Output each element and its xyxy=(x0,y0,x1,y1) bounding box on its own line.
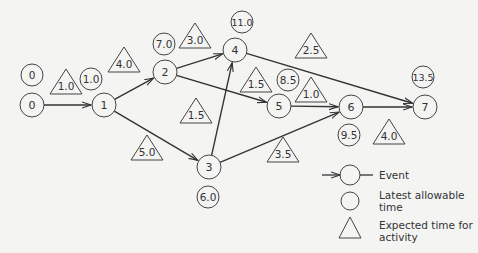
activity-arrow-3-4 xyxy=(212,63,233,156)
latest-time-label: 8.5 xyxy=(280,74,297,86)
legend-expected-line2: activity xyxy=(379,231,473,243)
latest-time-7: 13.5 xyxy=(412,66,434,88)
latest-time-label: 13.5 xyxy=(412,72,433,83)
activity-time-2-4: 3.0 xyxy=(179,23,211,48)
expected-time-label: 3.5 xyxy=(275,148,292,160)
legend-latest-label: Latest allowable time xyxy=(379,189,465,213)
expected-time-label: 1.0 xyxy=(303,88,320,100)
expected-time-label: 3.0 xyxy=(187,34,204,46)
event-node-0: 0 xyxy=(20,93,44,117)
event-label: 5 xyxy=(276,100,283,113)
event-node-7: 7 xyxy=(413,95,437,119)
activity-arrow-2-4 xyxy=(176,54,222,69)
event-node-5: 5 xyxy=(267,94,291,118)
latest-time-label: 0 xyxy=(29,69,36,81)
latest-time-0: 0 xyxy=(21,64,43,86)
legend-event-label: Event xyxy=(379,169,409,181)
legend-event-icon xyxy=(322,165,373,185)
event-label: 2 xyxy=(162,66,169,79)
expected-time-label: 4.0 xyxy=(381,130,398,142)
event-node-2: 2 xyxy=(153,60,177,84)
legend-expected-triangle-icon xyxy=(339,217,361,238)
event-label: 6 xyxy=(348,101,355,114)
latest-time-label: 6.0 xyxy=(200,191,217,203)
legend-expected-line1: Expected time for xyxy=(379,219,473,231)
activity-arrow-1-2 xyxy=(115,78,154,99)
event-label: 1 xyxy=(101,99,108,112)
pert-network: 1.04.05.03.01.51.53.52.51.04.0 01.07.06.… xyxy=(0,0,478,253)
event-label: 3 xyxy=(206,161,213,174)
activity-time-4-7: 2.5 xyxy=(295,33,327,58)
latest-time-3: 6.0 xyxy=(197,186,219,208)
activity-time-5-6: 1.0 xyxy=(295,77,327,102)
latest-time-1: 1.0 xyxy=(80,68,102,90)
event-node-6: 6 xyxy=(339,95,363,119)
latest-time-label: 7.0 xyxy=(156,38,173,50)
legend-latest-line2: time xyxy=(379,201,465,213)
event-label: 0 xyxy=(29,99,36,112)
latest-time-label: 1.0 xyxy=(83,73,100,85)
latest-time-2: 7.0 xyxy=(153,33,175,55)
expected-time-label: 1.0 xyxy=(58,80,75,92)
expected-time-label: 5.0 xyxy=(139,146,156,158)
activity-arrow-1-3 xyxy=(114,111,197,160)
activity-time-2-5: 1.5 xyxy=(240,67,272,92)
expected-time-label: 1.5 xyxy=(248,78,265,90)
activity-arrow-5-6 xyxy=(291,106,338,107)
activity-time-0-1: 1.0 xyxy=(50,69,82,94)
latest-time-6: 9.5 xyxy=(338,124,360,146)
activity-time-3-4: 1.5 xyxy=(180,98,212,123)
activity-time-1-3: 5.0 xyxy=(131,135,163,160)
event-node-3: 3 xyxy=(197,155,221,179)
legend-expected-label: Expected time for activity xyxy=(379,219,473,243)
latest-time-4: 11.0 xyxy=(231,11,253,33)
expected-time-label: 1.5 xyxy=(188,109,205,121)
latest-time-label: 9.5 xyxy=(341,129,358,141)
event-label: 7 xyxy=(422,101,429,114)
legend-latest-line1: Latest allowable xyxy=(379,189,465,201)
activity-arrow-4-7 xyxy=(246,53,412,103)
latest-time-5: 8.5 xyxy=(277,69,299,91)
event-node-1: 1 xyxy=(92,93,116,117)
legend-graphics xyxy=(322,165,373,238)
event-node-4: 4 xyxy=(223,38,247,62)
activity-time-6-7: 4.0 xyxy=(373,119,405,144)
expected-time-label: 2.5 xyxy=(303,44,320,56)
legend-latest-circle-icon xyxy=(341,192,359,210)
event-label: 4 xyxy=(232,44,239,57)
latest-time-label: 11.0 xyxy=(231,17,252,28)
expected-time-label: 4.0 xyxy=(116,58,133,70)
activity-time-1-2: 4.0 xyxy=(108,47,140,72)
